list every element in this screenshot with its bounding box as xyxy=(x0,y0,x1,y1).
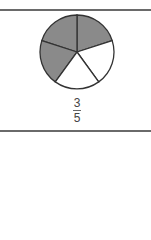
bottom-rule xyxy=(0,130,151,132)
fraction-denominator: 5 xyxy=(64,112,90,124)
fraction-numerator: 3 xyxy=(64,97,90,109)
